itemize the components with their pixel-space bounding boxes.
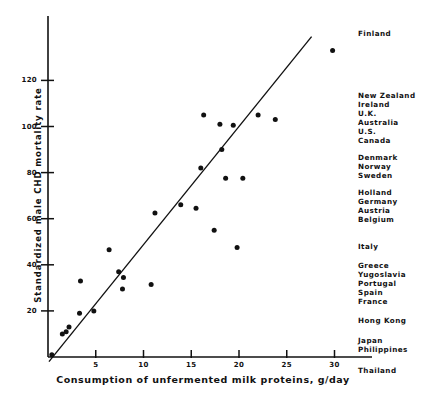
country-label: Austria: [358, 207, 390, 214]
data-point: [231, 123, 236, 128]
y-tick-label: 40: [11, 261, 37, 269]
country-label: Germany: [358, 198, 398, 205]
country-label: Yugoslavia: [358, 271, 406, 278]
y-tick-label: 20: [11, 307, 37, 315]
country-label: U.S.: [358, 128, 376, 135]
country-label: Belgium: [358, 216, 394, 223]
country-label: France: [358, 298, 388, 305]
data-point: [49, 352, 54, 357]
regression-line: [49, 37, 312, 362]
data-point: [120, 287, 125, 292]
country-label: Norway: [358, 163, 391, 170]
data-point: [212, 228, 217, 233]
data-point: [64, 329, 69, 334]
country-label: Greece: [358, 262, 389, 269]
data-points: [49, 48, 335, 357]
data-point: [273, 117, 278, 122]
country-label: Canada: [358, 137, 391, 144]
country-label: Sweden: [358, 172, 393, 179]
country-label: Spain: [358, 289, 383, 296]
x-tick-label: 15: [179, 361, 203, 369]
data-point: [91, 308, 96, 313]
data-point: [223, 176, 228, 181]
x-tick-label: 25: [275, 361, 299, 369]
country-label: Ireland: [358, 101, 390, 108]
data-point: [121, 275, 126, 280]
data-point: [67, 325, 72, 330]
x-axis-title: Consumption of unfermented milk proteins…: [48, 374, 358, 385]
chart-figure: Standardized male CHD mortality rate Con…: [0, 0, 422, 401]
y-axis-title: Standardized male CHD mortality rate: [33, 65, 43, 325]
data-point: [116, 269, 121, 274]
data-point: [240, 176, 245, 181]
y-tick-label: 100: [11, 123, 37, 131]
country-label: Finland: [358, 30, 391, 37]
data-point: [217, 122, 222, 127]
country-label: U.K.: [358, 110, 377, 117]
country-label: Hong Kong: [358, 317, 406, 324]
data-point: [78, 278, 83, 283]
country-label: Italy: [358, 243, 378, 250]
y-tick-label: 60: [11, 215, 37, 223]
data-point: [330, 48, 335, 53]
data-point: [235, 245, 240, 250]
data-point: [149, 282, 154, 287]
data-point: [219, 147, 224, 152]
country-label: Portugal: [358, 280, 396, 287]
y-tick-label: 80: [11, 169, 37, 177]
x-tick-label: 20: [227, 361, 251, 369]
x-tick-label: 5: [84, 361, 108, 369]
data-point: [178, 202, 183, 207]
country-label: Philippines: [358, 346, 408, 353]
data-point: [152, 210, 157, 215]
country-label: New Zealand: [358, 92, 416, 99]
country-label: Denmark: [358, 154, 398, 161]
x-tick-label: 10: [132, 361, 156, 369]
data-point: [201, 112, 206, 117]
x-tick-label: 30: [323, 361, 347, 369]
country-label: Australia: [358, 119, 399, 126]
data-point: [77, 311, 82, 316]
data-point: [256, 112, 261, 117]
data-point: [107, 247, 112, 252]
axes: [48, 16, 372, 357]
data-point: [194, 206, 199, 211]
data-point: [198, 165, 203, 170]
country-label: Thailand: [358, 367, 397, 374]
country-annotation-list: FinlandNew ZealandIrelandU.K.AustraliaU.…: [358, 0, 422, 401]
country-label: Japan: [358, 337, 383, 344]
trend-line: [49, 37, 312, 362]
country-label: Holland: [358, 189, 392, 196]
y-tick-label: 120: [11, 76, 37, 84]
